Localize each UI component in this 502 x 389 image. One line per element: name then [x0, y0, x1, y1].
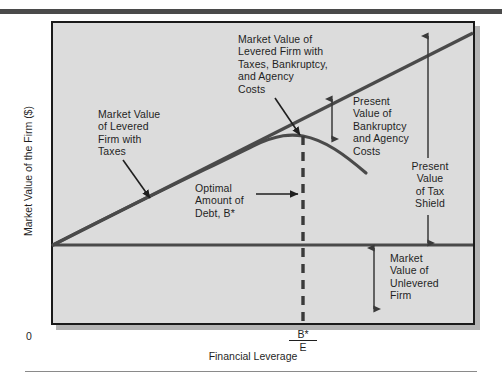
bstar-denominator: E: [289, 341, 317, 354]
annotation-levered-firm-with-costs: Market Value of Levered Firm with Taxes,…: [238, 33, 328, 95]
y-axis-label: Market Value of the Firm ($): [22, 81, 34, 261]
annotation-pv-tax-shield: Present Value of Tax Shield: [404, 160, 456, 210]
bstar-numerator: B*: [289, 328, 317, 341]
x-axis-tick-bstar-over-e: B* E: [289, 328, 317, 354]
annotation-mv-unlevered-firm: Market Value of Unlevered Firm: [390, 252, 439, 302]
x-axis-tick-origin: 0: [26, 330, 32, 342]
annotation-optimal-debt-amount: Optimal Amount of Debt, B*: [195, 182, 244, 219]
top-divider-rule: [0, 9, 502, 14]
annotation-levered-firm-with-taxes: Market Value of Levered Firm with Taxes: [98, 108, 160, 158]
figure-container: Market Value of Levered Firm with Taxes,…: [0, 0, 502, 389]
annotation-pv-bankruptcy-agency-costs: Present Value of Bankruptcy and Agency C…: [353, 95, 409, 157]
bottom-divider-rule: [25, 371, 477, 372]
